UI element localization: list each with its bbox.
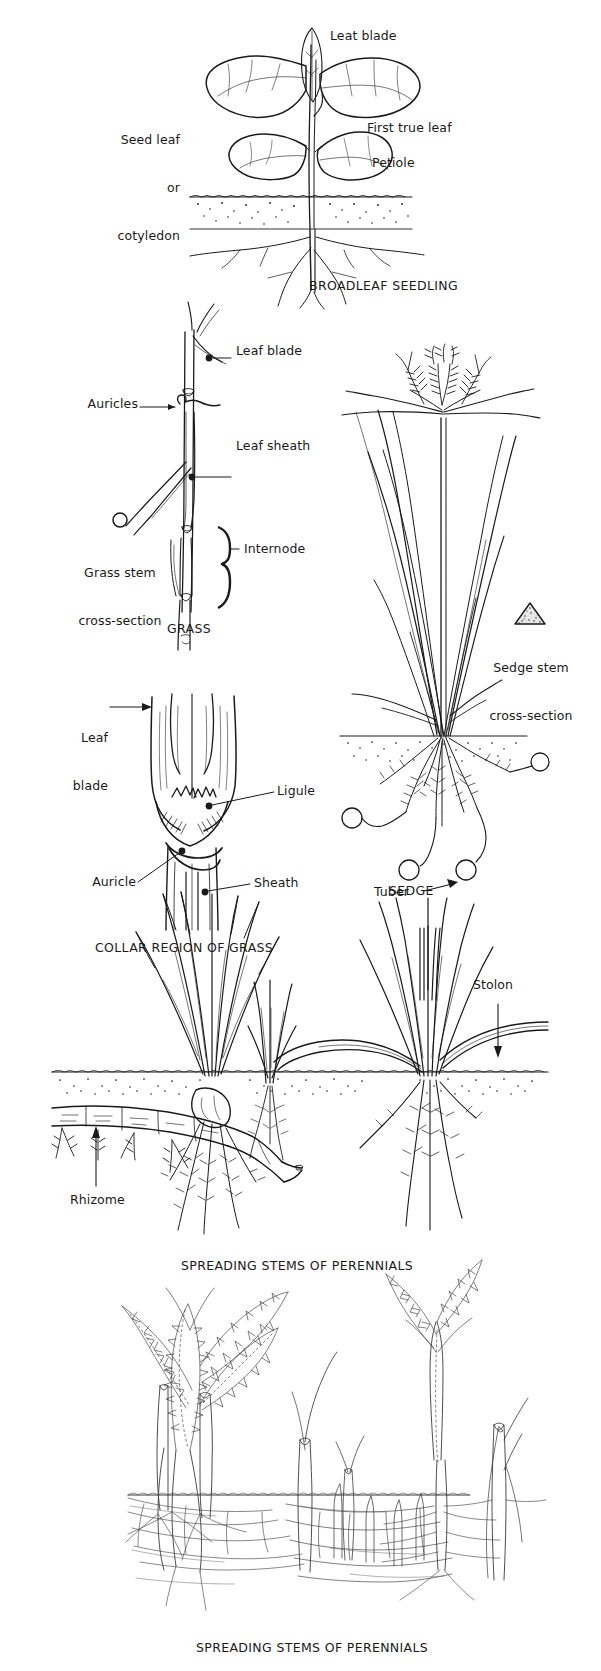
label-grass-leaf-sheath: Leaf sheath	[236, 438, 310, 454]
ligule-dot	[206, 803, 213, 810]
label-broadleaf-seed-leaf: Seed leaf or cotyledon	[0, 100, 180, 276]
label-sedge-cross-line2: cross-section	[470, 708, 592, 724]
stolon-lower	[443, 1030, 548, 1068]
label-grass-leaf-blade: Leaf blade	[236, 343, 302, 359]
caption-spreading-stems-2: SPREADING STEMS OF PERENNIALS	[196, 1640, 428, 1655]
auricle-dot	[179, 848, 186, 855]
caption-sedge: SEDGE	[389, 883, 434, 898]
label-broadleaf-leaf-blade: Leat blade	[330, 28, 397, 44]
sedge-root-hairs	[380, 754, 510, 804]
caption-collar-region: COLLAR REGION OF GRASS	[95, 940, 273, 955]
grass-leaders	[140, 355, 239, 549]
scene-culm-far-right	[444, 1398, 546, 1580]
label-grass-cross-section: Grass stem cross-section	[50, 533, 190, 661]
label-broadleaf-petiole: Petiole	[372, 155, 415, 171]
label-seed-leaf-line3: cotyledon	[0, 228, 180, 244]
label-seed-leaf-line2: or	[0, 180, 180, 196]
label-collar-leaf-blade: Leaf blade	[0, 698, 108, 826]
ligule-right-teeth	[194, 787, 216, 798]
perennial-roots-right	[360, 1080, 476, 1230]
label-grass-internode: Internode	[244, 541, 305, 557]
label-perennial-rhizome: Rhizome	[70, 1192, 125, 1208]
perennial-roots-left	[170, 1122, 256, 1234]
perennial-roots-middle	[250, 1086, 283, 1160]
rhizome-art	[52, 1106, 228, 1172]
sedge-art	[340, 344, 549, 891]
label-grass-auricles: Auricles	[0, 396, 138, 412]
sheath-dot	[202, 889, 209, 896]
diagram-page: Leat blade Seed leaf or cotyledon First …	[0, 0, 601, 1671]
tuber-left	[342, 808, 362, 828]
scene-thistle-left	[122, 1288, 304, 1610]
scene-thistle-right	[380, 1260, 500, 1600]
collar-region-art	[110, 694, 274, 930]
label-sedge-cross-line1: Sedge stem	[470, 660, 592, 676]
tuber-bottom-right	[456, 860, 476, 880]
perennial-shoot-middle	[248, 980, 296, 1083]
label-collar-leaf-line1: Leaf	[0, 730, 108, 746]
soil-line-perennial	[52, 1071, 548, 1095]
label-collar-auricle: Auricle	[60, 874, 136, 890]
ligule-left-teeth	[172, 786, 196, 797]
label-broadleaf-first-true-leaf: First true leaf	[367, 120, 452, 136]
perennial-clump-left	[136, 892, 279, 1076]
stolon-upper	[440, 1022, 548, 1060]
label-seed-leaf-line1: Seed leaf	[0, 132, 180, 148]
label-sedge-cross-section: Sedge stem cross-section	[470, 628, 592, 756]
sedge-cross-section-triangle	[515, 603, 545, 624]
grass-cross-section-circle	[113, 513, 127, 527]
tuber-bottom-left	[399, 860, 419, 880]
caption-broadleaf-seedling: BROADLEAF SEEDLING	[309, 278, 458, 293]
soil-line-broadleaf	[190, 196, 412, 230]
caption-spreading-stems-1: SPREADING STEMS OF PERENNIALS	[181, 1258, 413, 1273]
sedge-inflorescence	[396, 344, 491, 405]
scene-middle-shoots	[286, 1352, 452, 1582]
label-grass-cross-line1: Grass stem	[50, 565, 190, 581]
label-perennial-stolon: Stolon	[473, 977, 513, 993]
label-collar-ligule: Ligule	[277, 783, 315, 799]
spreading-stems-scene-art	[122, 1260, 546, 1610]
caption-grass: GRASS	[167, 621, 211, 636]
label-collar-leaf-line2: blade	[0, 778, 108, 794]
label-collar-sheath: Sheath	[254, 875, 299, 891]
